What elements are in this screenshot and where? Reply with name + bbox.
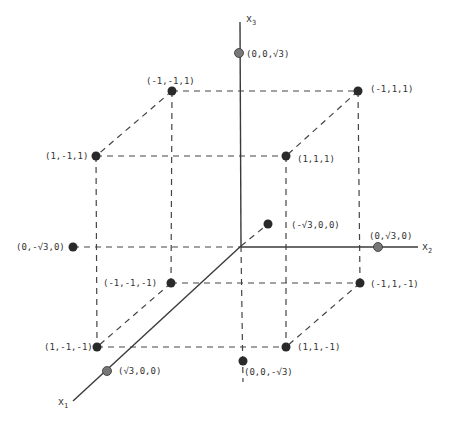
vertex-pos1-neg1-pos1 xyxy=(92,152,101,161)
point-x2-pos-sqrt3 xyxy=(374,243,383,252)
vertex-labels: (-1,-1,1) (-1,1,1) (1,-1,1) (1,1,1) (-1,… xyxy=(44,76,419,352)
edge-vert-front-left xyxy=(96,156,97,347)
x1-axis-label: x1 xyxy=(58,396,68,410)
edge-top-left xyxy=(96,91,172,156)
label-neg1-pos1-neg1: (-1,1,-1) xyxy=(370,279,419,289)
cube-vertices xyxy=(92,87,365,352)
label-pos1-neg1-neg1: (1,-1,-1) xyxy=(44,342,93,352)
label-x2-neg-sqrt3: (0,-√3,0) xyxy=(16,242,65,252)
label-pos1-pos1-neg1: (1,1,-1) xyxy=(297,342,340,352)
neg-x1-dashed xyxy=(241,224,268,246)
point-x3-neg-sqrt3 xyxy=(239,357,248,366)
edge-bottom-left xyxy=(97,283,171,347)
point-x1-neg-sqrt3 xyxy=(264,220,273,229)
vertex-neg1-pos1-neg1 xyxy=(356,279,365,288)
vertex-neg1-neg1-pos1 xyxy=(168,87,177,96)
label-neg1-neg1-neg1: (-1,-1,-1) xyxy=(103,278,157,288)
point-x1-pos-sqrt3 xyxy=(103,367,112,376)
point-x3-pos-sqrt3 xyxy=(235,49,244,58)
label-neg1-neg1-pos1: (-1,-1,1) xyxy=(146,76,195,86)
label-x1-neg-sqrt3: (-√3,0,0) xyxy=(291,220,340,230)
edge-vert-back-left xyxy=(171,91,172,283)
axes xyxy=(73,22,418,401)
axis-point-labels: (0,0,√3) (0,0,-√3) (0,√3,0) (0,-√3,0) (√… xyxy=(16,49,412,377)
label-neg1-pos1-pos1: (-1,1,1) xyxy=(370,84,413,94)
label-x3-pos-sqrt3: (0,0,√3) xyxy=(246,49,289,59)
label-pos1-pos1-pos1: (1,1,1) xyxy=(297,154,335,164)
edge-vert-back-right xyxy=(358,91,360,283)
vertex-pos1-pos1-neg1 xyxy=(282,343,291,352)
edge-bottom-right xyxy=(286,283,360,347)
x3-axis-label: x3 xyxy=(246,13,256,27)
x1-axis xyxy=(73,246,241,401)
vertex-pos1-neg1-neg1 xyxy=(93,343,102,352)
axis-points xyxy=(69,49,383,376)
vertex-neg1-pos1-pos1 xyxy=(354,87,363,96)
cube-edges xyxy=(73,91,360,382)
label-pos1-neg1-pos1: (1,-1,1) xyxy=(45,151,88,161)
diagram-canvas: x3 x2 x1 (-1,-1,1) (-1,1,1) (1,-1,1) (1,… xyxy=(0,0,449,423)
vertex-neg1-neg1-neg1 xyxy=(167,279,176,288)
x2-axis-label: x2 xyxy=(422,241,432,255)
label-x1-pos-sqrt3: (√3,0,0) xyxy=(118,366,161,376)
point-x2-neg-sqrt3 xyxy=(69,243,78,252)
label-x2-pos-sqrt3: (0,√3,0) xyxy=(369,231,412,241)
vertex-pos1-pos1-pos1 xyxy=(282,152,291,161)
label-x3-neg-sqrt3: (0,0,-√3) xyxy=(244,367,293,377)
edge-top-right xyxy=(286,91,358,156)
